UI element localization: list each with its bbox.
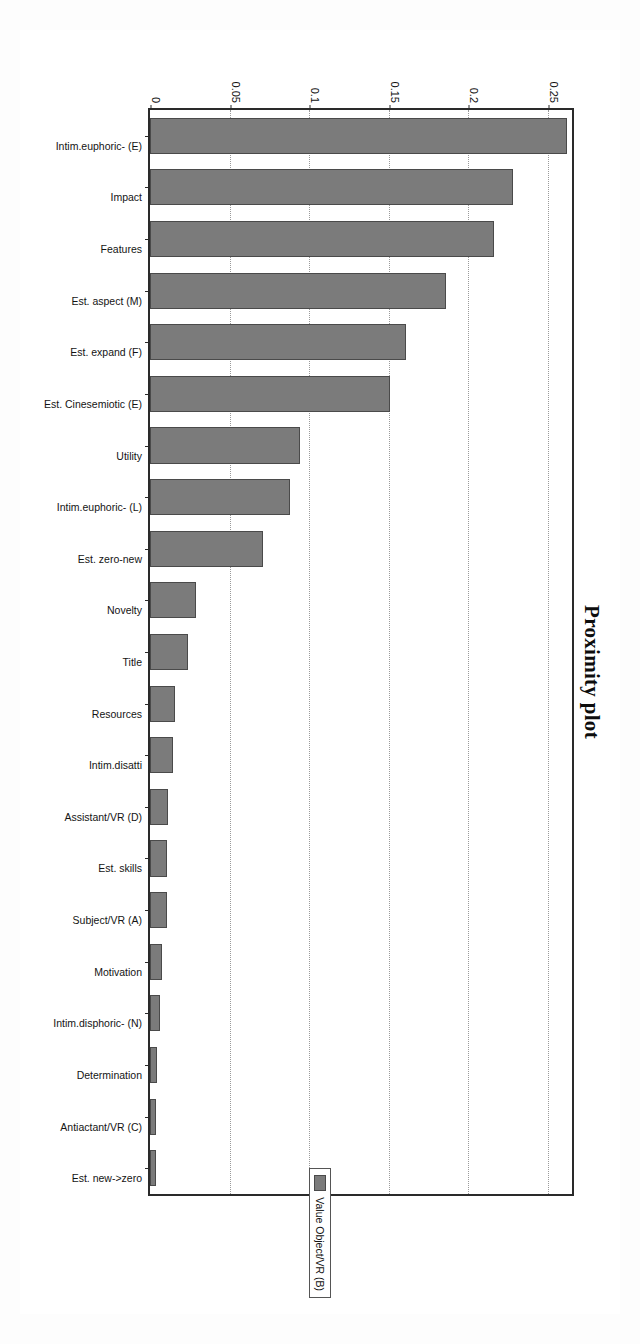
x-axis-tick-mark — [145, 962, 150, 963]
bar — [150, 892, 167, 928]
bar — [150, 840, 167, 876]
chart-title: Proximity plot — [579, 30, 604, 1314]
x-axis-tick-mark — [145, 858, 150, 859]
x-axis-tick-label: Assistant/VR (D) — [64, 811, 142, 823]
bar — [150, 634, 188, 670]
bar — [150, 169, 513, 205]
bar — [150, 737, 173, 773]
rotated-figure-wrapper: Proximity plot 00.050.10.150.20.25 Intim… — [20, 30, 620, 1314]
bar — [150, 1150, 156, 1186]
bar — [150, 531, 263, 567]
bar — [150, 221, 494, 257]
x-axis-tick-mark — [145, 1168, 150, 1169]
bar — [150, 1047, 157, 1083]
x-axis-tick-mark — [145, 704, 150, 705]
x-axis-tick-label: Intim.disphoric- (N) — [53, 1017, 142, 1029]
x-axis-tick-mark — [145, 446, 150, 447]
bar — [150, 995, 160, 1031]
x-axis-tick-label: Est. skills — [98, 862, 142, 874]
x-axis-tick-mark — [145, 187, 150, 188]
x-axis-tick-label: Utility — [116, 450, 142, 462]
bar — [150, 273, 446, 309]
y-axis-tick-label: 0.05 — [230, 82, 242, 103]
x-axis-tick-mark — [145, 497, 150, 498]
legend-swatch-icon — [314, 1175, 326, 1191]
x-axis-tick-label: Est. expand (F) — [70, 346, 142, 358]
bar — [150, 1099, 156, 1135]
x-axis-tick-mark — [145, 1117, 150, 1118]
x-axis-tick-mark — [145, 549, 150, 550]
x-axis-tick-label: Motivation — [94, 966, 142, 978]
x-axis-tick-label: Intim.euphoric- (E) — [56, 140, 142, 152]
x-axis-tick-label: Features — [101, 243, 142, 255]
y-axis-tick-label: 0 — [150, 97, 162, 103]
x-axis-tick-label: Antiactant/VR (C) — [60, 1121, 142, 1133]
bar — [150, 789, 168, 825]
plot-area: 00.050.10.150.20.25 Intim.euphoric- (E)I… — [148, 108, 574, 1196]
x-axis-tick-mark — [145, 652, 150, 653]
x-axis-tick-label: Impact — [110, 191, 142, 203]
y-axis-tick-label: 0.25 — [548, 82, 560, 103]
x-axis-tick-mark — [145, 136, 150, 137]
x-axis-tick-mark — [145, 291, 150, 292]
x-axis-tick-mark — [145, 600, 150, 601]
y-axis-tick-label: 0.2 — [468, 88, 480, 103]
bar — [150, 118, 567, 154]
x-axis-tick-label: Est. zero-new — [78, 553, 142, 565]
y-axis-tick-label: 0.15 — [389, 82, 401, 103]
x-axis-tick-label: Novelty — [107, 604, 142, 616]
x-axis-tick-label: Est. new->zero — [72, 1172, 142, 1184]
bar — [150, 376, 390, 412]
bar — [150, 427, 300, 463]
bar — [150, 686, 175, 722]
bars-layer: Intim.euphoric- (E)ImpactFeaturesEst. as… — [150, 110, 572, 1194]
x-axis-tick-mark — [145, 239, 150, 240]
x-axis-tick-label: Intim.euphoric- (L) — [57, 501, 142, 513]
x-axis-tick-mark — [145, 1065, 150, 1066]
x-axis-tick-mark — [145, 755, 150, 756]
y-axis-tick-label: 0.1 — [309, 88, 321, 103]
x-axis-tick-label: Intim.disatti — [89, 759, 142, 771]
x-axis-tick-label: Determination — [77, 1069, 142, 1081]
legend-label: Value Object/VR (B) — [314, 1197, 326, 1291]
x-axis-tick-label: Resources — [92, 708, 142, 720]
bar — [150, 944, 162, 980]
x-axis-tick-mark — [145, 394, 150, 395]
x-axis-tick-label: Subject/VR (A) — [73, 914, 142, 926]
chart-figure: Proximity plot 00.050.10.150.20.25 Intim… — [20, 30, 620, 1314]
x-axis-tick-mark — [145, 1013, 150, 1014]
bar — [150, 582, 196, 618]
x-axis-tick-mark — [145, 807, 150, 808]
chart-legend: Value Object/VR (B) — [309, 1168, 331, 1298]
x-axis-tick-mark — [145, 342, 150, 343]
x-axis-tick-label: Est. aspect (M) — [71, 295, 142, 307]
x-axis-tick-label: Title — [123, 656, 142, 668]
bar — [150, 324, 406, 360]
x-axis-tick-mark — [145, 910, 150, 911]
bar — [150, 479, 290, 515]
x-axis-tick-label: Est. Cinesemiotic (E) — [44, 398, 142, 410]
